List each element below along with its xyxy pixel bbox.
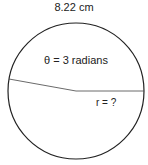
angle-label: θ = 3 radians xyxy=(44,54,108,66)
circle-diagram xyxy=(0,0,148,165)
radius-line-left xyxy=(9,79,76,91)
radius-label: r = ? xyxy=(96,97,116,108)
